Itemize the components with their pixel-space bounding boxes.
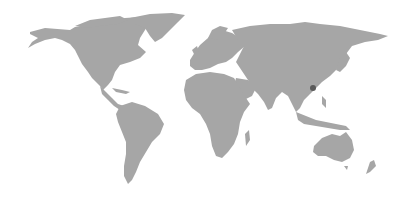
continent-south-america	[116, 102, 164, 184]
landmass-tasmania	[344, 166, 348, 170]
landmass-philippines	[322, 96, 326, 108]
continent-australia	[313, 132, 354, 162]
landmass-madagascar	[245, 130, 250, 146]
location-marker[interactable]	[310, 85, 316, 91]
region-maritime-southeast-asia	[296, 112, 350, 130]
world-map	[0, 0, 415, 199]
region-caribbean	[112, 88, 130, 94]
landmass-new-zealand	[366, 160, 376, 174]
continent-asia	[232, 22, 388, 112]
continent-north-america	[28, 17, 150, 90]
